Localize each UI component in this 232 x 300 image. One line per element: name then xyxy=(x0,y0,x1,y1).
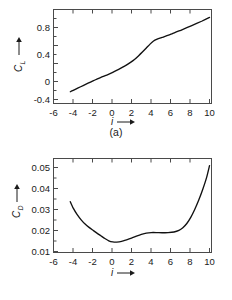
y-axis-title-b-sub: D xyxy=(17,205,24,210)
x-tick-label-b-8: 10 xyxy=(204,256,215,267)
y-axis-arrow-a xyxy=(16,37,22,42)
x-tick-label-b-0: -6 xyxy=(49,256,57,267)
chart-b-svg: 0.05 0.04 0.03 0.02 0.01 -6 -4 -2 0 2 4 … xyxy=(0,150,232,300)
x-tick-label-b-6: 6 xyxy=(168,256,173,267)
x-axis-title-b: i xyxy=(111,267,135,278)
x-tick-label-b-5: 4 xyxy=(148,256,153,267)
x-tick-label-a-4: 2 xyxy=(129,107,134,118)
y-axis-ticks-a xyxy=(54,19,59,100)
x-tick-label-a-8: 10 xyxy=(204,107,215,118)
x-tick-label-b-3: 0 xyxy=(109,256,114,267)
data-curve-a xyxy=(70,17,209,91)
y-tick-label-b-1: 0.04 xyxy=(32,183,51,194)
x-tick-label-a-7: 8 xyxy=(187,107,192,118)
x-tick-label-b-1: -4 xyxy=(69,256,77,267)
x-tick-label-b-4: 2 xyxy=(129,256,134,267)
figure-root: 0.8 0.4 0 -0.4 -6 -4 -2 0 2 4 6 8 10 -->… xyxy=(0,0,232,300)
y-tick-label-b-2: 0.03 xyxy=(32,204,51,215)
y-tick-label-a-0: 0.8 xyxy=(37,22,50,33)
x-axis-ticks-a xyxy=(54,10,210,104)
y-tick-label-b-0: 0.05 xyxy=(32,162,51,173)
y-tick-label-a-2: 0 xyxy=(45,76,50,87)
plot-frame-a xyxy=(54,10,212,104)
y-axis-arrow-b xyxy=(14,184,20,189)
x-axis-arrow-a xyxy=(130,119,135,125)
y-tick-label-b-4: 0.01 xyxy=(32,246,51,257)
x-tick-label-b-2: -2 xyxy=(88,256,96,267)
x-axis-arrow-b xyxy=(130,270,135,276)
y-axis-title-b: C D xyxy=(11,184,24,218)
panel-caption-a: (a) xyxy=(0,126,232,138)
x-axis-title-b-text: i xyxy=(111,267,114,278)
y-axis-ticks-b xyxy=(54,168,59,252)
x-tick-label-b-7: 8 xyxy=(187,256,192,267)
x-tick-label-a-6: 6 xyxy=(168,107,173,118)
x-tick-label-a-0: -6 xyxy=(49,107,57,118)
x-tick-label-a-1: -4 xyxy=(69,107,77,118)
chart-panel-b: 0.05 0.04 0.03 0.02 0.01 -6 -4 -2 0 2 4 … xyxy=(0,150,232,300)
y-tick-label-a-1: 0.4 xyxy=(37,49,50,60)
y-axis-title-a: C L xyxy=(13,37,26,72)
y-tick-label-b-3: 0.02 xyxy=(32,225,51,236)
y-tick-label-a-3: -0.4 xyxy=(34,94,50,105)
x-tick-label-a-2: -2 xyxy=(88,107,96,118)
chart-panel-a: 0.8 0.4 0 -0.4 -6 -4 -2 0 2 4 6 8 10 -->… xyxy=(0,0,232,150)
data-curve-b xyxy=(70,166,209,243)
y-axis-title-a-sub: L xyxy=(19,61,26,65)
x-tick-label-a-5: 4 xyxy=(148,107,153,118)
